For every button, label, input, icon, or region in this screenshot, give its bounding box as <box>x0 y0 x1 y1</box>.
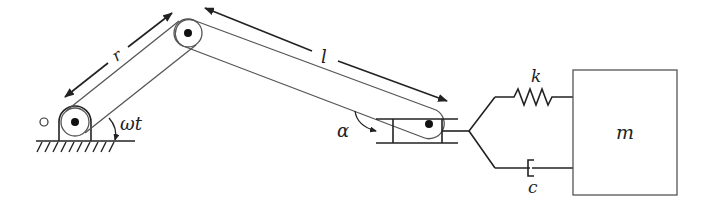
rod-angle-arc <box>355 111 376 131</box>
ground-pivot-pin <box>71 118 79 126</box>
rod-angle-label: α <box>337 120 349 141</box>
crank-rod-joint <box>174 19 202 47</box>
damper <box>495 160 573 176</box>
connecting-rod <box>175 20 444 139</box>
damper-label: c <box>528 177 538 197</box>
linkage-fork <box>469 97 495 168</box>
origin-marker <box>40 118 48 126</box>
crank-angle-label: ωt <box>120 113 143 134</box>
mass-label: m <box>616 121 634 143</box>
spring-label: k <box>531 66 541 86</box>
slider-block <box>376 119 469 143</box>
mechanism-diagram: r l ωt α k c m <box>0 0 707 203</box>
rod-length-label: l <box>321 46 327 67</box>
crank-angle-arc <box>109 118 116 140</box>
ground-hatch <box>37 142 114 152</box>
spring <box>495 89 573 105</box>
crank-length-label: r <box>108 44 126 65</box>
